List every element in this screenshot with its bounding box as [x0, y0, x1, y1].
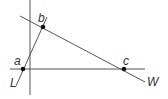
point-b: [41, 25, 46, 30]
label-l: L: [10, 76, 17, 90]
label-w: W: [147, 75, 160, 89]
diagram-canvas: a b c L W: [0, 0, 168, 99]
point-a: [21, 67, 26, 72]
label-a: a: [14, 54, 21, 68]
line-w: [20, 16, 145, 82]
label-c: c: [123, 54, 129, 68]
label-b: b: [38, 11, 45, 25]
